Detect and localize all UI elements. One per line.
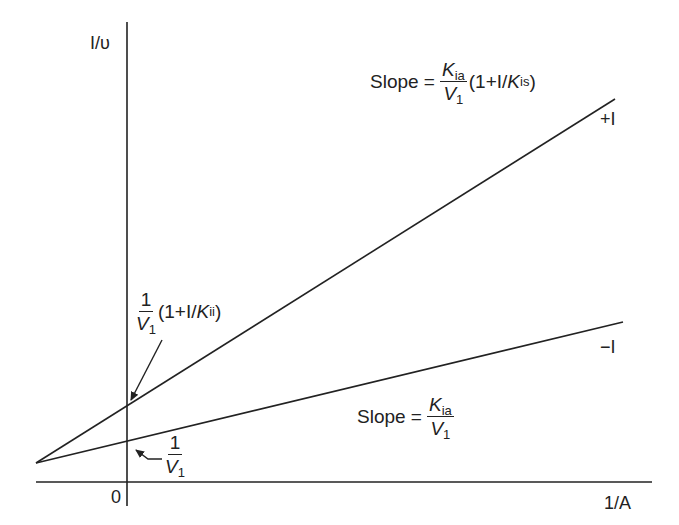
line-label-minus: −I [600, 338, 616, 356]
slope-fraction: Kia V1 [440, 60, 467, 103]
origin-label: 0 [111, 488, 121, 506]
intercept-annotation-minus: 1 V1 [163, 433, 187, 476]
arrow-intercept-plus [131, 340, 162, 400]
slope-annotation-plus: Slope = Kia V1 (1+I/Kis) [370, 60, 536, 103]
slope-prefix: Slope = [370, 72, 435, 91]
y-axis-label: I/υ [90, 34, 110, 52]
intercept-fraction: 1 V1 [136, 290, 156, 333]
line-without-inhibitor [36, 322, 623, 463]
slope-annotation-minus: Slope = Kia V1 [357, 395, 456, 438]
intercept-annotation-plus: 1 V1 (1+I/Kii) [134, 290, 221, 333]
diagram-canvas [0, 0, 679, 525]
intercept-fraction: 1 V1 [165, 433, 185, 476]
line-label-plus: +I [600, 110, 616, 128]
x-axis-label: 1/A [604, 494, 631, 512]
arrow-intercept-minus [136, 450, 162, 459]
line-with-inhibitor [36, 99, 615, 463]
slope-fraction: Kia V1 [427, 395, 454, 438]
